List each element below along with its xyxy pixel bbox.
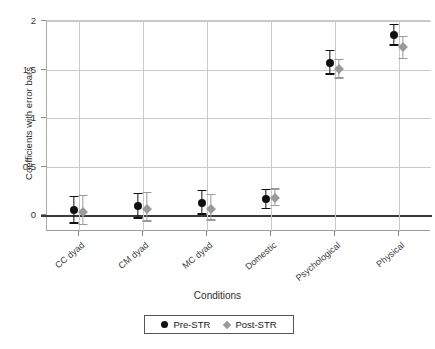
error-bar-cap bbox=[134, 193, 143, 194]
x-axis-tick bbox=[206, 231, 207, 236]
y-axis-tick bbox=[41, 117, 46, 118]
legend-marker-circle-icon bbox=[161, 321, 168, 328]
x-axis-tick bbox=[334, 231, 335, 236]
y-axis-tick bbox=[41, 214, 46, 215]
gridline-vertical bbox=[79, 21, 80, 232]
data-point-pre-str bbox=[198, 199, 206, 207]
chart-legend: Pre-STR Post-STR bbox=[144, 315, 294, 334]
error-bar-cap bbox=[79, 195, 88, 196]
data-point-pre-str bbox=[326, 59, 334, 67]
plot-area bbox=[46, 20, 430, 231]
error-bar-cap bbox=[198, 190, 207, 191]
error-bar-cap bbox=[262, 189, 271, 190]
error-bar-cap bbox=[390, 44, 399, 45]
error-bar-cap bbox=[207, 194, 216, 195]
gridline-vertical bbox=[399, 21, 400, 232]
y-axis-title: Coefficients with error bars bbox=[23, 44, 34, 204]
y-axis-tick-label: 2 bbox=[31, 15, 36, 26]
error-bar-cap bbox=[70, 196, 79, 197]
error-bar-cap bbox=[262, 208, 271, 209]
legend-label-post: Post-STR bbox=[235, 319, 276, 330]
data-point-pre-str bbox=[262, 195, 270, 203]
error-bar-cap bbox=[390, 24, 399, 25]
x-axis-tick bbox=[78, 231, 79, 236]
error-bar-cap bbox=[326, 73, 335, 74]
data-point-pre-str bbox=[390, 31, 398, 39]
gridline-vertical bbox=[335, 21, 336, 232]
data-point-pre-str bbox=[70, 206, 78, 214]
error-bar-cap bbox=[134, 217, 143, 218]
error-bar-cap bbox=[335, 77, 344, 78]
y-axis-tick bbox=[41, 20, 46, 21]
error-bar-cap bbox=[399, 58, 408, 59]
error-bar-cap bbox=[70, 222, 79, 223]
legend-item-post: Post-STR bbox=[224, 319, 276, 330]
error-bar-cap bbox=[198, 213, 207, 214]
gridline-vertical bbox=[143, 21, 144, 232]
x-axis-tick bbox=[398, 231, 399, 236]
y-axis-tick-label: 0 bbox=[31, 209, 36, 220]
y-axis-tick bbox=[41, 69, 46, 70]
legend-item-pre: Pre-STR bbox=[161, 319, 210, 330]
legend-label-pre: Pre-STR bbox=[173, 319, 210, 330]
error-bar-cap bbox=[335, 59, 344, 60]
error-bar-cap bbox=[143, 220, 152, 221]
error-bar-cap bbox=[79, 224, 88, 225]
gridline-horizontal bbox=[47, 167, 431, 168]
gridline-vertical bbox=[207, 21, 208, 232]
error-bar-cap bbox=[143, 192, 152, 193]
x-axis-title: Conditions bbox=[0, 290, 435, 301]
x-axis-tick bbox=[270, 231, 271, 236]
x-axis-tick bbox=[142, 231, 143, 236]
gridline-horizontal bbox=[47, 70, 431, 71]
legend-marker-diamond-icon bbox=[223, 320, 231, 328]
y-axis-tick bbox=[41, 166, 46, 167]
error-bar-cap bbox=[207, 219, 216, 220]
gridline-horizontal bbox=[47, 21, 431, 22]
error-bar-cap bbox=[399, 36, 408, 37]
gridline-horizontal bbox=[47, 118, 431, 119]
chart-figure: 00.511.52CC dyadCM dyadMC dyadDomesticPs… bbox=[0, 0, 435, 349]
error-bar-cap bbox=[271, 188, 280, 189]
error-bar-cap bbox=[271, 205, 280, 206]
error-bar-cap bbox=[326, 50, 335, 51]
